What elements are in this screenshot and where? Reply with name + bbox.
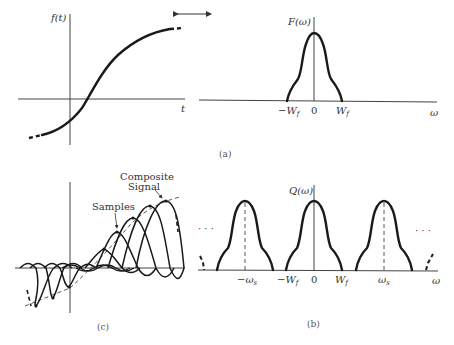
partial-replica-right [426,254,433,270]
tick-neg-Wf: −Wf [277,274,300,287]
tick-zero: 0 [311,105,317,116]
f-axis-label: f(t) [50,12,67,23]
t-axis-label: t [181,103,186,114]
samples-label: Samples [92,201,135,212]
tick-omega-s: ωs [378,274,390,287]
signal-curve [42,29,170,135]
omega-axis-label: ω [430,107,438,118]
signal-dashed-right [170,28,183,29]
caption-a: (a) [219,149,231,159]
partial-replica-left [200,256,204,270]
Q-axis-label: Q(ω) [289,185,313,196]
b-omega-axis-label: ω [432,275,440,286]
signal-dashed-left [29,135,42,138]
tick-neg-Wf: −Wf [278,105,301,118]
sinc-pulse [136,201,184,268]
tick-zero: 0 [311,274,317,285]
samples-arrow-icon [115,213,117,228]
b-omega-axis [198,270,438,271]
tick-Wf: Wf [335,274,349,287]
sampling-figure: f(t) t F(ω) −Wf 0 Wf ω (a) [0,0,454,345]
F-axis-label: F(ω) [287,16,311,27]
ellipsis-left: · · · [198,223,214,234]
sample-points [34,199,167,307]
panel-a-spectrum: F(ω) −Wf 0 Wf ω [199,16,438,118]
ellipsis-right: · · · [415,225,431,236]
omega-axis [199,100,437,102]
panel-b-sampled-spectrum: · · · · · · Q(ω) −ωs −Wf 0 Wf ωs ω (b) [198,185,440,329]
tick-Wf: Wf [336,105,350,118]
caption-b: (b) [307,319,320,329]
c-dashed-left [27,290,31,306]
tick-neg-omega-s: −ωs [237,274,258,287]
c-dashed-right [176,215,178,232]
panel-a-time-signal: f(t) t [18,12,211,145]
panel-c-reconstruction: Composite Signal Samples (c) [15,171,185,332]
caption-c: (c) [97,322,109,332]
